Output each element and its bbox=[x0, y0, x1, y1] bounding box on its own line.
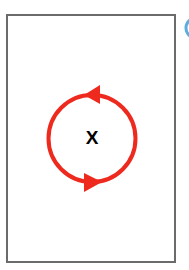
cycle-center-label: X bbox=[72, 126, 112, 150]
badge-circle-icon bbox=[186, 18, 189, 38]
